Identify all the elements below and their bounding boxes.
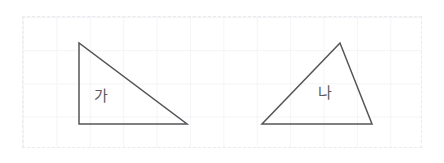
triangle-ga[interactable] — [79, 43, 187, 124]
shapes-canvas — [0, 0, 444, 163]
triangle-na[interactable] — [262, 43, 372, 124]
triangle-na-label: 나 — [318, 86, 332, 101]
figure-screenshot: 가 나 — [0, 0, 444, 163]
triangle-ga-label: 가 — [94, 89, 108, 104]
